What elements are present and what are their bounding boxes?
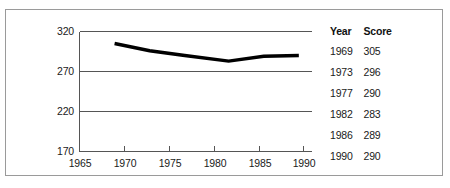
table-row: 1982 283 [330, 108, 392, 129]
cell-year: 1982 [330, 108, 364, 129]
cell-year: 1977 [330, 87, 364, 108]
table-row: 1973 296 [330, 66, 392, 87]
xtick-label-1965: 1965 [60, 157, 100, 169]
cell-score: 290 [364, 150, 392, 171]
ytick-label-270: 270 [42, 65, 74, 77]
xtick-label-1990: 1990 [284, 157, 324, 169]
x-axis-ticks [80, 146, 304, 152]
table-row: 1969 305 [330, 45, 392, 66]
cell-score: 283 [364, 108, 392, 129]
xtick-label-1975: 1975 [150, 157, 190, 169]
cell-score: 305 [364, 45, 392, 66]
column-header-score: Score [364, 25, 392, 45]
table-row: 1990 290 [330, 150, 392, 171]
cell-year: 1969 [330, 45, 364, 66]
ytick-label-170: 170 [42, 145, 74, 157]
score-data-table: Year Score 1969 305 1973 296 1977 290 19… [330, 25, 392, 171]
gridlines [80, 32, 313, 152]
ytick-label-320: 320 [42, 25, 74, 37]
xtick-label-1985: 1985 [240, 157, 280, 169]
cell-year: 1986 [330, 129, 364, 150]
cell-score: 290 [364, 87, 392, 108]
ytick-label-220: 220 [42, 105, 74, 117]
column-header-year: Year [330, 25, 364, 45]
table-header-row: Year Score [330, 25, 392, 45]
xtick-label-1980: 1980 [195, 157, 235, 169]
cell-year: 1973 [330, 66, 364, 87]
cell-year: 1990 [330, 150, 364, 171]
cell-score: 289 [364, 129, 392, 150]
figure-container: 320 270 220 170 1965 1970 1975 1980 1985… [0, 0, 450, 188]
score-line [115, 44, 299, 62]
table-row: 1977 290 [330, 87, 392, 108]
cell-score: 296 [364, 66, 392, 87]
xtick-label-1970: 1970 [105, 157, 145, 169]
table-row: 1986 289 [330, 129, 392, 150]
